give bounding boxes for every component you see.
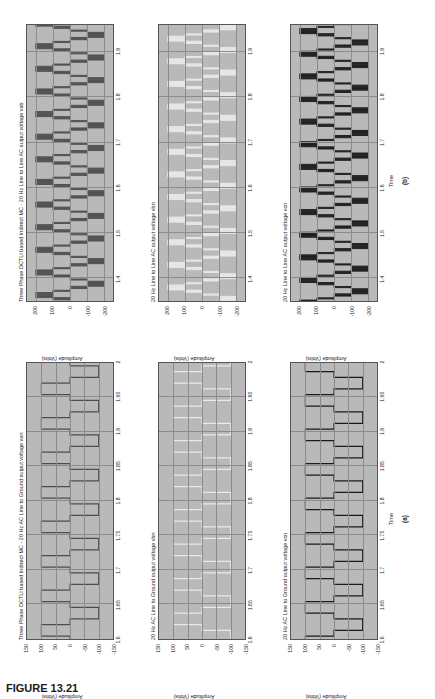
gridline-v	[159, 141, 245, 142]
gridline-v	[159, 431, 245, 432]
gridline-h	[368, 25, 369, 301]
panel-b3-xtick: 1.5	[379, 230, 385, 237]
panel-b3-ytick: 200	[295, 306, 301, 315]
panel-a3-xtick: 1.65	[379, 600, 385, 610]
panel-a1-title: Three Phase DCTLI based Indirect MC - 20…	[18, 432, 25, 639]
panel-a1-ytick: -150	[111, 644, 117, 654]
panel-b1-ytick: -200	[102, 306, 108, 316]
gridline-h	[334, 25, 335, 301]
panel-a2-xtick: 2	[247, 360, 253, 363]
panel-a3-xtick: 1.85	[379, 461, 385, 471]
gridline-v	[291, 187, 377, 188]
panel-a2-xtick: 1.95	[247, 391, 253, 401]
panel-b3-title: 20 Hz Line to Line AC output voltage vcn	[282, 202, 289, 301]
panel-a3-yticks: 150100500-50-100-150	[290, 642, 378, 680]
panel-a2-plot	[158, 362, 246, 640]
panel-b3-ytick: 100	[313, 306, 319, 315]
gridline-v	[27, 51, 113, 52]
gridline-v	[159, 187, 245, 188]
panel-a2-ylabel: Amplitude (Volts)	[173, 694, 214, 699]
panel-a3-xtick: 1.6	[379, 636, 385, 643]
panel-b3-xlabel: Time	[388, 174, 394, 186]
panel-a1-ytick: 0	[67, 644, 73, 647]
panel-a2: 20 Hz AC Line to Ground output voltage v…	[150, 358, 272, 680]
panel-a1-xtick: 1.6	[115, 636, 121, 643]
panel-b1-title: Three Phase DCTLI based Indirect MC - 20…	[18, 102, 25, 302]
subfigure-a: Three Phase DCTLI based Indirect MC - 20…	[18, 358, 418, 680]
panel-a2-xtick: 1.7	[247, 566, 253, 573]
panel-a1-xtick: 1.75	[115, 530, 121, 540]
panel-b1-plot	[26, 24, 114, 302]
panel-b3-xticks: 1.41.51.61.71.81.9	[379, 24, 389, 302]
gridline-v	[291, 96, 377, 97]
panel-b2-ytick: 0	[199, 306, 205, 309]
panel-a3-xtick: 1.75	[379, 530, 385, 540]
panel-a2-xtick: 1.6	[247, 636, 253, 643]
panel-a3-ytick: -100	[360, 644, 366, 654]
panel-b2-xtick: 1.9	[247, 47, 253, 54]
panel-b3-xtick: 1.6	[379, 184, 385, 191]
panel-a3-title: 20 Hz AC Line to Ground output voltage v…	[282, 532, 289, 639]
gridline-v	[291, 500, 377, 501]
panel-a2-ytick: 150	[155, 644, 161, 653]
gridline-v	[27, 396, 113, 397]
panel-a3-xtick: 1.9	[379, 427, 385, 434]
figure-caption: FIGURE 13.21	[6, 682, 78, 694]
panel-a1-xticks: 1.61.651.71.751.81.851.91.952	[115, 362, 125, 640]
gridline-h	[219, 25, 220, 301]
gridline-v	[27, 431, 113, 432]
gridline-h	[202, 25, 203, 301]
gridline-v	[27, 232, 113, 233]
panel-a3-xticks: 1.61.651.71.751.81.851.91.952	[379, 362, 389, 640]
panel-b3-ytick: -100	[348, 306, 354, 316]
panel-b2-xtick: 1.6	[247, 184, 253, 191]
figure-stage: Three Phase DCTLI based Indirect MC - 20…	[18, 20, 418, 680]
panel-a2-ytick: -50	[213, 644, 219, 652]
panel-a3-ytick: 0	[331, 644, 337, 647]
figure-page: Three Phase DCTLI based Indirect MC - 20…	[0, 0, 435, 699]
panel-b3-ylabel: Amplitude (Volts)	[305, 356, 346, 362]
panel-a2-xticks: 1.61.651.71.751.81.851.91.952	[247, 362, 257, 640]
gridline-v	[159, 396, 245, 397]
panel-a2-ytick: -100	[228, 644, 234, 654]
panel-a3-plot	[290, 362, 378, 640]
gridline-v	[159, 569, 245, 570]
gridline-v	[159, 232, 245, 233]
panel-a1-plot	[26, 362, 114, 640]
gridline-v	[291, 465, 377, 466]
panel-a3-ylabel: Amplitude (Volts)	[305, 694, 346, 699]
panel-b2-ytick: -200	[234, 306, 240, 316]
gridline-h	[70, 25, 71, 301]
panel-b1-ytick: 200	[31, 306, 37, 315]
gridline-h	[351, 25, 352, 301]
panel-b2-ytick: -100	[216, 306, 222, 316]
panel-a3-xtick: 2	[379, 360, 385, 363]
gridline-v	[159, 51, 245, 52]
gridline-v	[27, 187, 113, 188]
panel-b3-xtick: 1.8	[379, 93, 385, 100]
gridline-v	[27, 569, 113, 570]
panel-a2-ytick: 100	[169, 644, 175, 653]
panel-b2: 20 Hz Line to Line AC output voltage vbn…	[150, 20, 272, 342]
panel-b1-ytick: -100	[84, 306, 90, 316]
panel-a3-xtick: 1.95	[379, 391, 385, 401]
panel-a2-title: 20 Hz AC Line to Ground output voltage v…	[150, 532, 157, 640]
gridline-v	[291, 431, 377, 432]
gridline-v	[291, 51, 377, 52]
gridline-h	[87, 25, 88, 301]
panel-b2-title: 20 Hz Line to Line AC output voltage vbn	[150, 202, 157, 302]
panel-a2-ytick: 50	[184, 644, 190, 650]
panel-a1-ylabel: Amplitude (Volts)	[41, 694, 82, 699]
panel-a1: Three Phase DCTLI based Indirect MC - 20…	[18, 358, 140, 680]
panel-b2-ylabel: Amplitude (Volts)	[173, 356, 214, 362]
gridline-h	[35, 25, 36, 301]
panel-b3-xtick: 1.7	[379, 138, 385, 145]
panel-b3-ytick: -200	[366, 306, 372, 316]
panel-a2-ytick: -150	[243, 644, 249, 654]
gridline-h	[299, 25, 300, 301]
gridline-v	[27, 96, 113, 97]
panel-a1-ytick: 50	[52, 644, 58, 650]
panel-a2-xtick: 1.75	[247, 530, 253, 540]
gridline-v	[27, 534, 113, 535]
gridline-h	[167, 25, 168, 301]
